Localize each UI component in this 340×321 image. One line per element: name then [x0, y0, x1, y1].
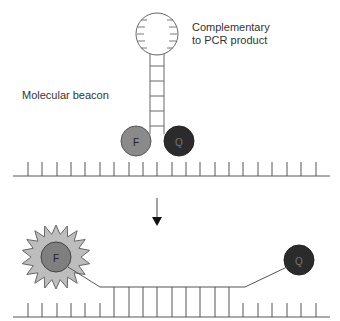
loop-label-line2: to PCR product: [192, 34, 270, 47]
molecular-beacon-diagram: F Q F: [0, 0, 340, 321]
loop-bases: [137, 20, 177, 48]
quencher-bottom: Q: [284, 245, 314, 275]
fluorophore-label-bottom: F: [53, 253, 59, 264]
quencher-top: Q: [164, 126, 194, 156]
hairpin-beacon: F Q: [121, 13, 194, 156]
down-arrow-icon: [152, 198, 162, 226]
quencher-label: Q: [175, 137, 183, 148]
fluorophore-quenched: F: [121, 126, 151, 156]
quencher-label-bottom: Q: [295, 256, 303, 267]
fluorophore-emitting: F: [22, 225, 89, 289]
probe-hybridized: [68, 267, 287, 287]
loop-label: Complementary to PCR product: [192, 21, 270, 47]
beacon-stem: [150, 54, 164, 134]
fluorophore-label: F: [133, 137, 139, 148]
loop-label-line1: Complementary: [192, 21, 270, 34]
target-strand-bottom: [13, 287, 330, 317]
target-strand-top: [13, 162, 330, 176]
beacon-label: Molecular beacon: [22, 89, 109, 102]
